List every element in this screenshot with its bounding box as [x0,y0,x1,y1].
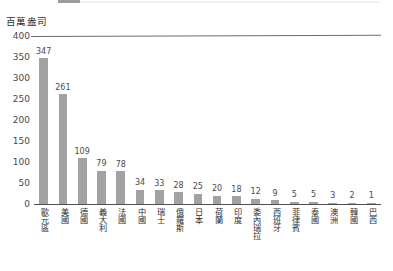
bar [174,192,183,204]
bar-slot: 3 [323,36,342,204]
bar-value-label: 33 [150,180,169,188]
x-axis-category: 泰國 [304,208,323,228]
x-axis-category: 韓國 [342,208,361,228]
bar-slot: 18 [227,36,246,204]
bar-slot: 109 [73,36,92,204]
x-axis-category-label: 西班牙 [270,208,279,232]
bar-slot: 79 [92,36,111,204]
bar [328,203,337,204]
bar-slot: 12 [246,36,265,204]
bar [309,202,318,204]
bar-slot: 25 [188,36,207,204]
y-axis-tick-150: 150 [0,137,30,146]
bar-slot: 78 [111,36,130,204]
y-axis-tick-400: 400 [0,32,30,41]
bar-series: 347261109797834332825201812955321 [34,36,381,204]
x-axis-category-label: 中國 [135,208,144,224]
bar [116,171,125,204]
x-axis-category-label: 德國 [78,208,87,224]
x-axis-category-label: 歐元區 [39,208,48,232]
y-axis-tick-350: 350 [0,53,30,62]
bar-slot: 20 [208,36,227,204]
bar-value-label: 34 [130,179,149,187]
x-axis-baseline [34,204,381,205]
bar-slot: 2 [342,36,361,204]
x-axis-category-label: 法國 [116,208,125,224]
x-axis-category-label: 泰國 [309,208,318,224]
y-axis-tick-250: 250 [0,95,30,104]
bar [97,171,106,204]
bar-value-label: 28 [169,182,188,190]
bar-value-label: 3 [323,192,342,200]
bar [271,200,280,204]
bar-slot: 9 [265,36,284,204]
x-axis-category: 德國 [73,208,92,228]
x-axis-category-label: 義大利 [97,208,106,232]
x-axis-category: 菲律賓 [285,208,304,236]
bar-value-label: 12 [246,188,265,196]
x-axis-category: 澳洲 [323,208,342,228]
y-axis-tick-50: 50 [0,179,30,188]
bar [290,202,299,204]
bar-value-label: 261 [53,84,72,92]
bar-value-label: 18 [227,186,246,194]
bar-value-label: 5 [285,191,304,199]
x-axis-category: 巴西 [362,208,381,228]
x-axis-category-label: 美國 [58,208,67,224]
bar-value-label: 20 [208,185,227,193]
bar-slot: 347 [34,36,53,204]
x-axis-category-label: 菲律賓 [290,208,299,232]
x-axis-category: 美國 [53,208,72,228]
bar [213,196,222,204]
x-axis-category-label: 巴西 [367,208,376,224]
bar-slot: 261 [53,36,72,204]
x-axis-category-label: 委內瑞拉 [251,208,260,240]
y-axis-tick-300: 300 [0,74,30,83]
x-axis-category: 荷蘭 [208,208,227,228]
x-axis-category-label: 韓國 [347,208,356,224]
bar-value-label: 1 [362,192,381,200]
bar-slot: 33 [150,36,169,204]
bar-slot: 1 [362,36,381,204]
x-axis-category: 歐元區 [34,208,53,236]
bar [39,58,48,204]
x-axis-category-label: 印度 [232,208,241,224]
bar-value-label: 2 [342,192,361,200]
cropped-header-artifact-line [80,1,380,3]
bar-slot: 5 [285,36,304,204]
bar [78,158,87,204]
x-axis-category: 委內瑞拉 [246,208,265,244]
x-axis-category: 西班牙 [265,208,284,236]
x-axis-category: 俄羅斯 [169,208,188,236]
y-axis-tick-200: 200 [0,116,30,125]
x-axis-category-label: 日本 [193,208,202,224]
bar-value-label: 347 [34,48,53,56]
x-axis-category: 法國 [111,208,130,228]
y-axis-tick-0: 0 [0,200,30,209]
bar-slot: 5 [304,36,323,204]
bar-slot: 34 [130,36,149,204]
x-axis-category-label: 瑞士 [155,208,164,224]
bar [194,194,203,205]
x-axis-category: 義大利 [92,208,111,236]
x-axis-category-label: 荷蘭 [213,208,222,224]
bar [232,196,241,204]
bar-value-label: 109 [73,148,92,156]
bar [348,203,357,204]
bar-chart: 百萬盎司 400350300250200150100500 3472611097… [0,0,393,271]
bar [59,94,68,204]
chart-unit-title: 百萬盎司 [6,14,47,28]
cropped-header-artifact [58,0,80,3]
x-axis-category: 日本 [188,208,207,228]
bar-value-label: 78 [111,161,130,169]
x-axis-category: 印度 [227,208,246,228]
bar [367,203,376,204]
x-axis-category-labels: 歐元區美國德國義大利法國中國瑞士俄羅斯日本荷蘭印度委內瑞拉西班牙菲律賓泰國澳洲韓… [34,208,381,270]
bar [251,199,260,204]
x-axis-category: 中國 [130,208,149,228]
x-axis-category-label: 澳洲 [328,208,337,224]
bar-value-label: 79 [92,160,111,168]
bar-value-label: 5 [304,191,323,199]
bar-slot: 28 [169,36,188,204]
bar [155,190,164,204]
